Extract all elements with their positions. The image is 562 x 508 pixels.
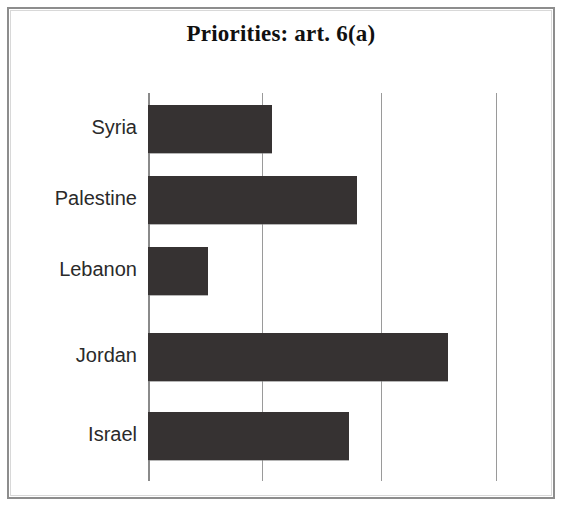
category-label-jordan: Jordan [0,344,137,367]
bar [148,105,272,153]
category-label-palestine: Palestine [0,187,137,210]
category-label-israel: Israel [0,423,137,446]
chart-figure: Priorities: art. 6(a) SyriaPalestineLeba… [0,0,562,508]
bar [148,247,208,295]
bar [148,176,357,224]
chart-title: Priorities: art. 6(a) [0,21,562,47]
bar [148,412,349,460]
category-label-syria: Syria [0,116,137,139]
bar [148,333,448,381]
category-label-lebanon: Lebanon [0,258,137,281]
bars-layer [148,93,548,481]
category-axis-labels: SyriaPalestineLebanonJordanIsrael [0,93,137,481]
